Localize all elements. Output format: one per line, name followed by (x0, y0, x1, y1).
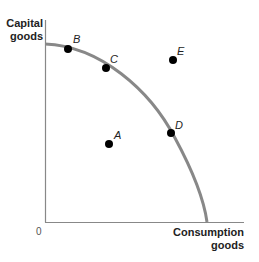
point-b (64, 45, 72, 53)
point-e (169, 56, 177, 64)
x-axis-label-line1: Consumption (173, 226, 244, 239)
point-a (105, 140, 113, 148)
y-axis-label: Capital goods (6, 17, 43, 43)
y-axis-label-line1: Capital (6, 17, 43, 30)
point-c (102, 64, 110, 72)
x-axis-label: Consumption goods (173, 226, 244, 252)
ppf-curve (45, 44, 207, 222)
point-d (167, 129, 175, 137)
point-a-label: A (114, 129, 121, 141)
y-axis-label-line2: goods (6, 30, 43, 43)
origin-label: 0 (36, 226, 42, 237)
point-e-label: E (177, 45, 184, 57)
point-b-label: B (73, 33, 80, 45)
point-c-label: C (110, 53, 118, 65)
x-axis-label-line2: goods (173, 239, 244, 252)
point-d-label: D (175, 119, 183, 131)
ppf-chart: Capital goods Consumption goods 0 A B C … (0, 0, 259, 262)
